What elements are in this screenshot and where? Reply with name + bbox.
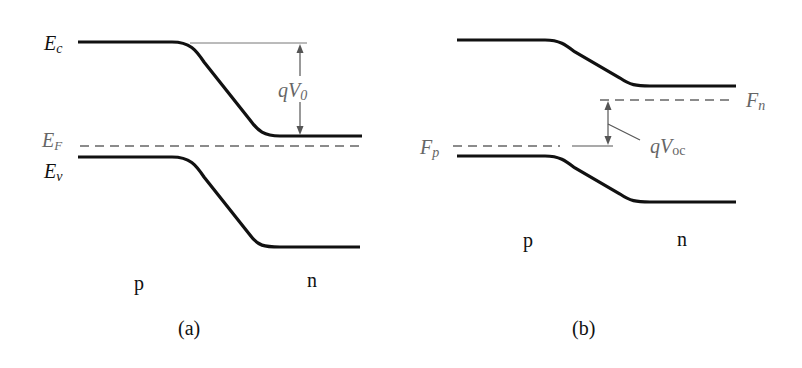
voc-arrow: [605, 101, 612, 145]
conduction-band-a: [78, 42, 362, 136]
voc-leader-line: [608, 124, 640, 140]
label-p-side-a: p: [134, 272, 144, 295]
caption-a: (a): [178, 317, 200, 340]
label-p-side-b: p: [523, 229, 533, 252]
label-qvoc: qVoc: [650, 135, 685, 158]
valence-band-b: [457, 156, 736, 202]
label-ev: Ev: [43, 160, 63, 184]
label-n-side-a: n: [307, 269, 317, 291]
label-ef: EF: [41, 129, 63, 153]
label-ec: Ec: [43, 32, 63, 56]
panel-a: Ec EF Ev qV0 p n (a): [41, 32, 362, 340]
band-diagram-figure: Ec EF Ev qV0 p n (a): [0, 0, 802, 368]
conduction-band-b: [457, 40, 736, 86]
label-fp: Fp: [419, 136, 439, 160]
panel-b: Fn Fp qVoc p n (b): [419, 40, 765, 340]
label-n-side-b: n: [677, 228, 687, 250]
label-qv0: qV0: [278, 79, 307, 103]
caption-b: (b): [572, 317, 595, 340]
label-fn: Fn: [745, 89, 765, 113]
valence-band-a: [78, 157, 360, 247]
